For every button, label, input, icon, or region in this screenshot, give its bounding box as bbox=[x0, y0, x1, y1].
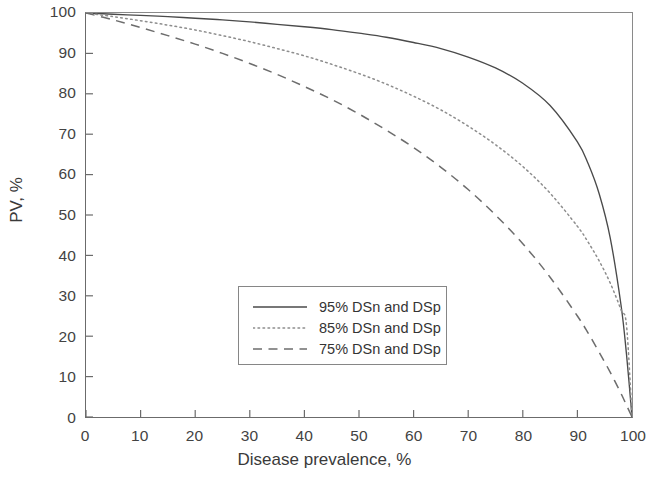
x-tick-label: 100 bbox=[620, 427, 646, 445]
x-tick-label: 60 bbox=[405, 427, 422, 445]
x-tick-label: 70 bbox=[460, 427, 477, 445]
legend-label: 85% DSn and DSp bbox=[319, 320, 441, 336]
y-tick-label: 20 bbox=[28, 328, 76, 346]
y-tick-label: 0 bbox=[28, 409, 76, 427]
legend-label: 75% DSn and DSp bbox=[319, 341, 441, 357]
y-axis-title: PV, % bbox=[7, 150, 27, 250]
x-tick-label: 80 bbox=[515, 427, 532, 445]
y-tick-label: 50 bbox=[28, 206, 76, 224]
legend-item: 75% DSn and DSp bbox=[239, 338, 446, 359]
y-tick-label: 100 bbox=[28, 3, 76, 21]
chart-legend: 95% DSn and DSp85% DSn and DSp75% DSn an… bbox=[238, 286, 447, 365]
x-axis-title: Disease prevalence, % bbox=[0, 450, 649, 470]
x-tick-label: 50 bbox=[350, 427, 367, 445]
x-tick-label: 90 bbox=[569, 427, 586, 445]
y-tick-label: 70 bbox=[28, 125, 76, 143]
x-tick-label: 30 bbox=[241, 427, 258, 445]
y-tick-label: 10 bbox=[28, 368, 76, 386]
legend-label: 95% DSn and DSp bbox=[319, 299, 441, 315]
y-tick-label: 60 bbox=[28, 165, 76, 183]
chart-figure: 0102030405060708090100 01020304050607080… bbox=[0, 0, 649, 481]
y-tick-label: 40 bbox=[28, 247, 76, 265]
x-tick-label: 10 bbox=[131, 427, 148, 445]
legend-line-swatch bbox=[253, 301, 307, 313]
x-tick-label: 0 bbox=[81, 427, 90, 445]
legend-line-swatch bbox=[253, 343, 307, 355]
x-tick-label: 40 bbox=[295, 427, 312, 445]
legend-item: 85% DSn and DSp bbox=[239, 317, 446, 338]
y-tick-label: 30 bbox=[28, 287, 76, 305]
y-tick-label: 80 bbox=[28, 84, 76, 102]
legend-item: 95% DSn and DSp bbox=[239, 296, 446, 317]
legend-line-swatch bbox=[253, 322, 307, 334]
y-tick-label: 90 bbox=[28, 44, 76, 62]
x-tick-label: 20 bbox=[186, 427, 203, 445]
